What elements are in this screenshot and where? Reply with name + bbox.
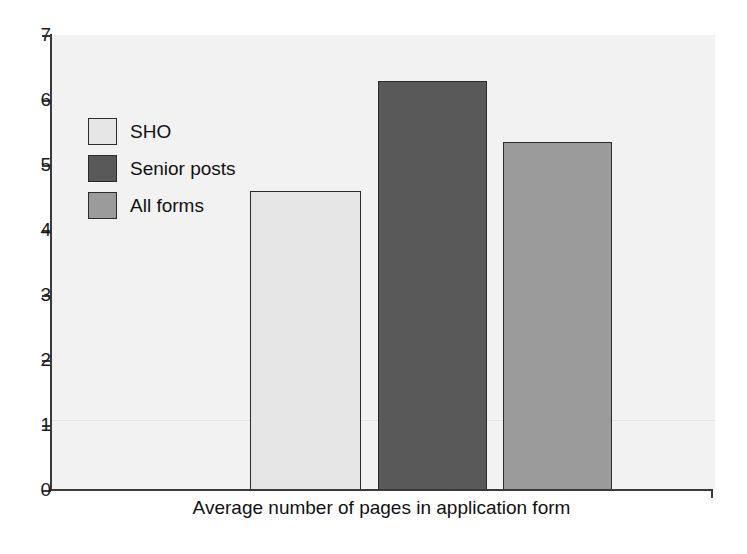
y-tick-label-1: 1 [21,415,51,434]
legend-swatch-sho [88,118,117,145]
legend-swatch-senior-posts [88,155,117,182]
legend-label-sho: SHO [130,122,171,141]
y-tick-label-7: 7 [21,25,51,44]
legend: SHO Senior posts All forms [88,113,268,224]
legend-swatch-all-forms [88,192,117,219]
legend-label-senior-posts: Senior posts [130,159,236,178]
x-axis-line [50,489,713,491]
legend-item-senior-posts: Senior posts [88,150,268,187]
bar-all-forms [503,142,612,490]
y-tick-label-2: 2 [21,350,51,369]
bar-sho [250,191,361,490]
y-tick-label-0: 0 [21,480,51,499]
x-axis-title: Average number of pages in application f… [50,497,713,519]
y-tick-label-6: 6 [21,90,51,109]
legend-item-sho: SHO [88,113,268,150]
plot-area [51,35,715,490]
y-tick-label-5: 5 [21,155,51,174]
y-tick-label-4: 4 [21,220,51,239]
bar-chart: 7 6 5 4 3 2 1 0 SHO Senior posts [0,0,747,554]
bar-senior-posts [378,81,487,491]
y-tick-label-3: 3 [21,285,51,304]
legend-label-all-forms: All forms [130,196,204,215]
legend-item-all-forms: All forms [88,187,268,224]
